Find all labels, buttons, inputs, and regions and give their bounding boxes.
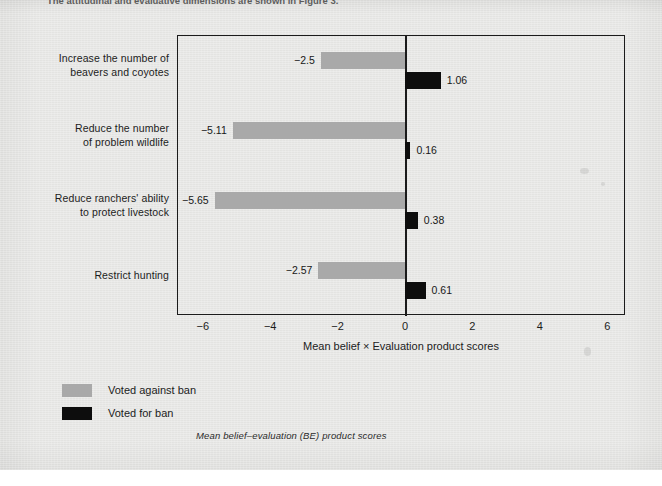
category-label-2-line-0: Reduce ranchers' ability [9,192,169,206]
x-tick-label-0: 0 [385,320,425,332]
category-label-3-line-0: Restrict hunting [9,269,169,283]
category-label-1-line-0: Reduce the number [9,122,169,136]
figure-caption: Mean belief–evaluation (BE) product scor… [196,430,387,441]
bar-against-3 [318,262,405,279]
bar-against-1 [233,122,405,139]
x-tick-label-neg2: −2 [318,320,358,332]
bar-for-2 [405,212,418,229]
bar-for-3 [405,282,426,299]
bar-for-1 [405,142,410,159]
x-axis-title: Mean belief × Evaluation product scores [177,340,625,352]
legend-label-against: Voted against ban [108,381,196,400]
bar-value-label-against-2: −5.65 [153,192,209,209]
bar-value-label-for-3: 0.61 [432,282,488,299]
x-tick-label-2: 2 [452,320,492,332]
x-tick-label-4: 4 [520,320,560,332]
category-label-0-line-0: Increase the number of [9,52,169,66]
category-label-2-line-1: to protect livestock [9,206,169,220]
x-tick-label-neg4: −4 [250,320,290,332]
category-label-1-line-1: of problem wildlife [9,136,169,150]
page-bottom-margin [0,470,662,486]
bar-value-label-for-0: 1.06 [447,72,503,89]
bar-value-label-against-0: −2.5 [259,52,315,69]
legend-swatch-icon-for [62,407,92,420]
x-tick-label-6: 6 [587,320,627,332]
bar-against-2 [215,192,405,209]
bar-against-0 [321,52,405,69]
bar-value-label-for-2: 0.38 [424,212,480,229]
legend-label-for: Voted for ban [108,404,173,423]
bar-value-label-against-3: −2.57 [256,262,312,279]
bar-value-label-for-1: 0.16 [416,142,472,159]
x-tick-label-neg6: −6 [183,320,223,332]
bar-chart-figure: Increase the number of beavers and coyot… [0,0,662,470]
category-label-0-line-1: beavers and coyotes [9,66,169,80]
bar-value-label-against-1: −5.11 [171,122,227,139]
bar-for-0 [405,72,441,89]
legend-swatch-icon-against [62,384,92,397]
